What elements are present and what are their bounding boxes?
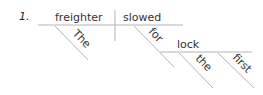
- object-word: lock: [177, 38, 200, 51]
- preposition-word: for: [146, 25, 166, 45]
- verb-word: slowed: [123, 11, 161, 24]
- diagram-canvas: 1. freighter slowed The for lock the fir…: [0, 0, 263, 95]
- modifier-word-first: first: [230, 51, 255, 76]
- subject-word: freighter: [55, 11, 103, 24]
- item-number: 1.: [19, 10, 30, 23]
- modifier-word-the: The: [69, 26, 93, 51]
- sentence-diagram: 1. freighter slowed The for lock the fir…: [0, 0, 263, 95]
